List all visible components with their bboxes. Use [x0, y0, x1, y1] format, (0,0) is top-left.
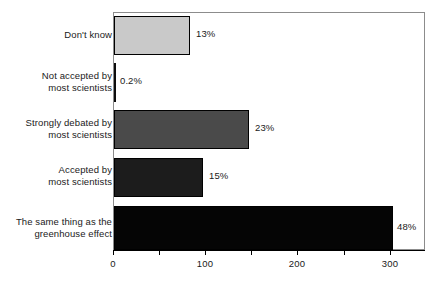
x-tick-200	[297, 250, 298, 255]
x-tick-100	[205, 250, 206, 255]
category-label-dont-know: Don't know	[0, 29, 112, 41]
x-tick-150	[251, 250, 252, 255]
value-label-not-accepted: 0.2%	[120, 76, 142, 86]
x-tick-label-0: 0	[93, 258, 133, 269]
category-label-accepted: Accepted by most scientists	[0, 164, 112, 187]
x-tick-50	[159, 250, 160, 255]
category-label-not-accepted: Not accepted by most scientists	[0, 70, 112, 93]
value-label-same-thing-greenhouse: 48%	[397, 222, 416, 232]
bar-dont-know	[114, 16, 190, 55]
x-tick-300	[390, 250, 391, 255]
x-tick-label-300: 300	[370, 258, 410, 269]
value-label-accepted: 15%	[209, 171, 228, 181]
bar-same-thing-greenhouse	[114, 206, 393, 250]
bar-not-accepted	[114, 63, 116, 102]
x-tick-250	[344, 250, 345, 255]
value-label-dont-know: 13%	[196, 29, 215, 39]
x-tick-0	[113, 250, 114, 255]
bar-strongly-debated	[114, 110, 249, 149]
value-label-strongly-debated: 23%	[255, 123, 274, 133]
category-label-strongly-debated: Strongly debated by most scientists	[0, 117, 112, 140]
x-tick-label-100: 100	[185, 258, 225, 269]
bar-accepted	[114, 158, 203, 197]
category-label-same-thing-greenhouse: The same thing as the greenhouse effect	[0, 216, 112, 239]
x-tick-label-200: 200	[277, 258, 317, 269]
bar-chart: Don't know Not accepted by most scientis…	[0, 0, 439, 284]
